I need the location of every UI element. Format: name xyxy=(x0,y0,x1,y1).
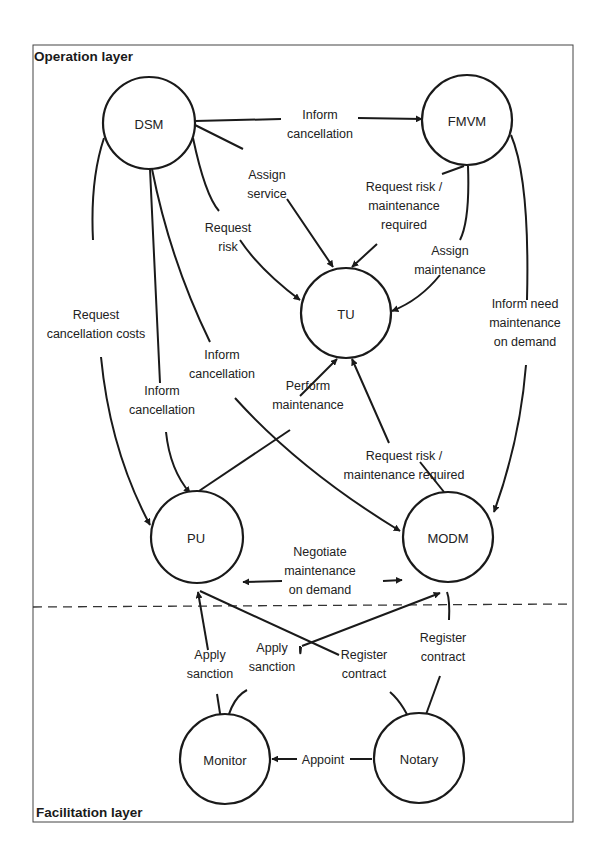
node-notary: Notary xyxy=(374,713,464,803)
svg-text:FMVM: FMVM xyxy=(448,114,486,129)
edge-pu-modm xyxy=(243,581,282,582)
node-modm: MODM xyxy=(403,492,493,582)
label-fmvm-tu-assign: Assignmaintenance xyxy=(414,244,486,277)
label-dsm-fmvm: Informcancellation xyxy=(287,108,353,141)
svg-text:MODM: MODM xyxy=(427,531,468,546)
label-monitor-modm: Applysanction xyxy=(249,641,296,674)
label-modm-notary: Registercontract xyxy=(420,631,467,664)
operation-layer-label: Operation layer xyxy=(34,49,134,64)
node-dsm: DSM xyxy=(103,77,195,169)
edge-pu-modm-right xyxy=(383,580,402,581)
label-fmvm-tu-risk: Request risk /maintenancerequired xyxy=(366,180,443,232)
label-dsm-tu-assign: Assignservice xyxy=(247,168,287,201)
svg-text:PU: PU xyxy=(187,531,205,546)
node-fmvm: FMVM xyxy=(422,75,512,165)
svg-text:Notary: Notary xyxy=(400,752,439,767)
node-tu: TU xyxy=(301,268,391,358)
label-pu-tu: Performmaintenance xyxy=(272,379,344,412)
edge-labels: Informcancellation Assignservice Request… xyxy=(47,108,561,767)
label-pu-modm: Negotiatemaintenanceon demand xyxy=(284,545,356,597)
layer-divider xyxy=(33,604,573,607)
edge-dsm-pu-inform xyxy=(150,169,190,493)
facilitation-layer-label: Facilitation layer xyxy=(36,805,143,820)
label-dsm-pu-costs: Requestcancellation costs xyxy=(47,308,146,341)
label-dsm-tu-risk: Requestrisk xyxy=(205,221,252,254)
edge-modm-notary xyxy=(447,592,449,620)
node-monitor: Monitor xyxy=(180,714,270,804)
svg-text:TU: TU xyxy=(337,307,354,322)
agent-interaction-diagram: Operation layer Facilitation layer xyxy=(0,0,605,861)
edge-pu-tu xyxy=(199,430,290,491)
label-dsm-pu-inform: Informcancellation xyxy=(129,384,195,417)
label-fmvm-modm: Inform needmaintenanceon demand xyxy=(489,297,561,349)
label-monitor-pu: Applysanction xyxy=(187,648,234,681)
svg-text:Monitor: Monitor xyxy=(203,753,247,768)
node-pu: PU xyxy=(151,491,243,583)
edge-dsm-tu-risk xyxy=(193,138,300,300)
label-modm-tu: Request risk /maintenance required xyxy=(344,449,465,482)
edge-monitor-pu xyxy=(198,592,208,650)
svg-text:DSM: DSM xyxy=(135,117,164,132)
label-dsm-modm-inform: Informcancellation xyxy=(189,348,255,381)
label-pu-notary: Registercontract xyxy=(341,648,388,681)
label-notary-monitor: Appoint xyxy=(302,753,345,767)
